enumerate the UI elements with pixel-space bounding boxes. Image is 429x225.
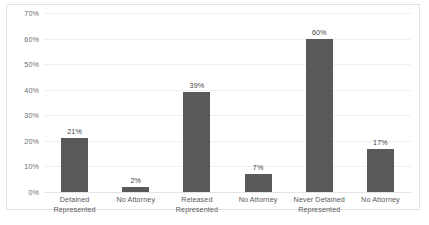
- y-axis-tick-label: 0%: [28, 188, 39, 197]
- x-axis-category-label-line: Represented: [289, 205, 350, 215]
- bar-value-label: 17%: [350, 138, 411, 147]
- x-axis-category-label-line: Released: [166, 195, 227, 205]
- x-axis-category-label: No Attorney: [228, 195, 289, 214]
- y-axis-tick-label: 70%: [24, 9, 39, 18]
- x-axis-category-label-line: No Attorney: [228, 195, 289, 205]
- x-axis-category-label-line: Never Detained: [289, 195, 350, 205]
- y-axis-tick-label: 30%: [24, 111, 39, 120]
- y-axis-tick-label: 50%: [24, 60, 39, 69]
- bar[interactable]: [367, 149, 394, 192]
- x-axis-category-label-line: Detained: [44, 195, 105, 205]
- x-axis-category-label: DetainedRepresented: [44, 195, 105, 214]
- bar-slot: 60%: [289, 13, 350, 192]
- bar[interactable]: [61, 138, 88, 192]
- bar[interactable]: [183, 92, 210, 192]
- bar-slot: 17%: [350, 13, 411, 192]
- bar-value-label: 39%: [166, 81, 227, 90]
- y-axis-tick-label: 60%: [24, 34, 39, 43]
- bar-value-label: 2%: [105, 176, 166, 185]
- x-axis-category-labels: DetainedRepresentedNo AttorneyReleasedRe…: [44, 195, 411, 214]
- bar-series: 21%2%39%7%60%17%: [44, 13, 411, 192]
- bar-slot: 21%: [44, 13, 105, 192]
- y-axis-tick-label: 20%: [24, 136, 39, 145]
- x-axis-category-label-line: No Attorney: [350, 195, 411, 205]
- bar-value-label: 21%: [44, 127, 105, 136]
- bar[interactable]: [306, 39, 333, 192]
- bar-slot: 39%: [166, 13, 227, 192]
- x-axis-category-label: No Attorney: [350, 195, 411, 214]
- plot-area: 0%10%20%30%40%50%60%70% 21%2%39%7%60%17%: [44, 13, 411, 192]
- x-axis-category-label: Never DetainedRepresented: [289, 195, 350, 214]
- x-axis-category-label-line: Represented: [44, 205, 105, 215]
- chart-frame: 0%10%20%30%40%50%60%70% 21%2%39%7%60%17%…: [6, 4, 420, 210]
- x-axis-category-label-line: No Attorney: [105, 195, 166, 205]
- x-axis-category-label-line: Represented: [166, 205, 227, 215]
- bar[interactable]: [245, 174, 272, 192]
- y-axis-tick-label: 40%: [24, 85, 39, 94]
- bar[interactable]: [122, 187, 149, 192]
- bar-value-label: 60%: [289, 28, 350, 37]
- y-axis-tick-label: 10%: [24, 162, 39, 171]
- bar-value-label: 7%: [228, 163, 289, 172]
- gridline: [44, 192, 411, 193]
- bar-slot: 2%: [105, 13, 166, 192]
- x-axis-category-label: ReleasedRepresented: [166, 195, 227, 214]
- x-axis-category-label: No Attorney: [105, 195, 166, 214]
- bar-slot: 7%: [228, 13, 289, 192]
